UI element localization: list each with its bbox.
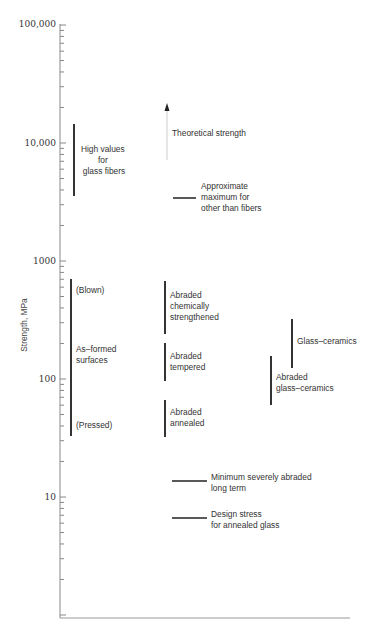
y-axis xyxy=(60,24,66,618)
tick-label-100: 100 xyxy=(39,374,56,384)
strength-chart: 100,000 10,000 1000 100 10 Strength, MPa… xyxy=(0,0,378,629)
tick-label-1000: 1000 xyxy=(33,256,56,266)
approx-max-label: Approximate maximum for other than fiber… xyxy=(201,181,262,213)
min-abraded-label: Minimum severely abraded long term xyxy=(211,472,314,493)
theoretical-strength-label: Theoretical strength xyxy=(172,128,246,138)
tick-label-10000: 10,000 xyxy=(25,138,57,148)
blown-label: (Blown) xyxy=(76,285,105,295)
abraded-glass-ceramics-label: Abraded glass–ceramics xyxy=(276,372,334,393)
pressed-label: (Pressed) xyxy=(76,420,113,430)
glass-ceramics-label: Glass–ceramics xyxy=(297,336,357,346)
y-axis-title: Strength, MPa xyxy=(19,298,29,352)
chem-strengthened-label: Abraded chemically strengthened xyxy=(170,290,219,322)
tick-label-10: 10 xyxy=(45,492,57,502)
theoretical-strength-arrow xyxy=(165,103,170,160)
tick-label-100000: 100,000 xyxy=(19,19,56,29)
design-stress-label: Design stress for annealed glass xyxy=(211,509,279,530)
annealed-label: Abraded annealed xyxy=(170,407,205,428)
glass-fibers-label: High values for glass fibers xyxy=(81,144,127,176)
y-axis-ticks xyxy=(60,25,66,615)
tempered-label: Abraded tempered xyxy=(170,351,206,372)
as-formed-label: As–formed surfaces xyxy=(76,344,119,365)
